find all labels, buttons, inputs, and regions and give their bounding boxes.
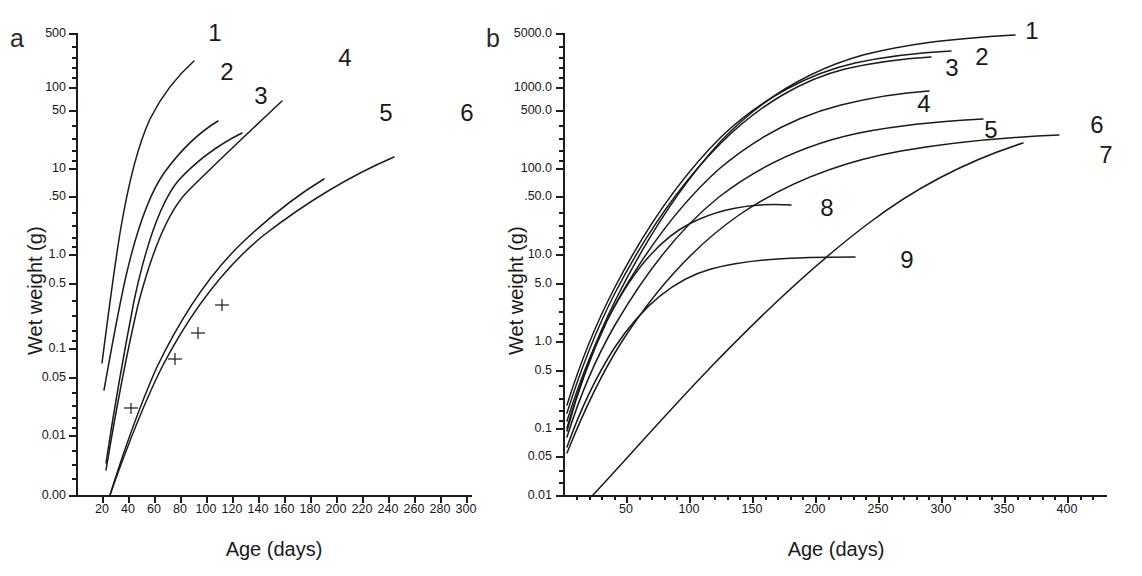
panel-b-ytick-label: 0.5	[492, 363, 552, 377]
panel-b-ytick-label: 500.0	[492, 103, 552, 117]
panel-a-xtick-label: 160	[274, 502, 295, 516]
panel-b-xtick-label: 400	[1057, 502, 1078, 516]
panel-a-curve-label-6: 6	[460, 101, 473, 125]
panel-a-xtick-label: 20	[95, 502, 109, 516]
panel-a-curves	[76, 33, 472, 496]
panel-b-ytick	[556, 428, 563, 430]
panel-b-xtick-minor	[865, 496, 867, 500]
panel-b-xtick-minor	[991, 496, 993, 500]
panel-a-ytick	[69, 495, 76, 497]
panel-b-ytick-label: .50.0	[492, 189, 552, 203]
panel-b-xtick-minor	[1054, 496, 1056, 500]
panel-b-curve-label-4: 4	[917, 92, 930, 116]
panel-b-curve-label-8: 8	[820, 196, 833, 220]
panel-b-xtick-minor	[1029, 496, 1031, 500]
panel-b-x-axis-title: Age (days)	[788, 538, 885, 561]
panel-a-ytick-label: 0.00	[20, 488, 66, 502]
panel-b-xtick-minor	[903, 496, 905, 500]
panel-b-xtick-minor	[891, 496, 893, 500]
panel-b: b 5000.0 1000.0 500.0 100.0 .50.0 10.0 5…	[480, 0, 1142, 576]
panel-b-xtick-minor	[1042, 496, 1044, 500]
panel-a-curve-label-1: 1	[208, 21, 221, 45]
panel-b-xtick-minor	[714, 496, 716, 500]
panel-b-curve-label-5: 5	[984, 118, 997, 142]
panel-a-xtick-label: 180	[300, 502, 321, 516]
panel-b-xtick-minor	[1017, 496, 1019, 500]
curve-a-3	[106, 133, 242, 463]
panel-b-ytick-label: 0.01	[492, 488, 552, 502]
panel-a-x-axis-title: Age (days)	[226, 538, 323, 561]
panel-b-xtick-minor	[739, 496, 741, 500]
panel-b-ytick	[556, 283, 563, 285]
panel-a-xtick-label: 220	[352, 502, 373, 516]
panel-b-ytick	[556, 196, 563, 198]
panel-b-curve-label-1: 1	[1025, 19, 1038, 43]
panel-a: a 500 100 50 10 .50 1.0 0.5 0.1 0.05 0.0…	[0, 0, 500, 576]
curve-b-1	[567, 35, 1015, 428]
panel-b-xtick-minor	[777, 496, 779, 500]
panel-a-ytick-label: 100	[20, 80, 66, 94]
panel-b-xtick-label: 350	[994, 502, 1015, 516]
panel-a-xtick-label: 60	[147, 502, 161, 516]
panel-b-curve-label-9: 9	[900, 248, 913, 272]
panel-a-ytick	[69, 377, 76, 379]
panel-b-curve-label-7: 7	[1099, 143, 1112, 167]
panel-a-xtick-label: 300	[456, 502, 477, 516]
curve-a-2	[104, 121, 218, 390]
panel-a-curve-label-2: 2	[220, 60, 233, 84]
panel-a-xtick-label: 260	[404, 502, 425, 516]
panel-b-xtick-label: 250	[868, 502, 889, 516]
panel-a-ytick	[69, 348, 76, 350]
panel-a-ytick-label: 0.01	[20, 428, 66, 442]
panel-b-xtick-minor	[702, 496, 704, 500]
panel-a-xtick-label: 40	[121, 502, 135, 516]
panel-b-xtick-minor	[651, 496, 653, 500]
curve-b-3	[567, 57, 931, 413]
panel-a-ytick-label: 500	[20, 26, 66, 40]
curve-a-5	[110, 179, 324, 495]
panel-a-ytick-label: 50	[20, 103, 66, 117]
curve-b-7	[567, 135, 1059, 453]
curve-a-6	[110, 157, 394, 495]
panel-b-ytick	[556, 110, 563, 112]
panel-a-curve-label-4: 4	[338, 46, 351, 70]
growth-curve-figure: a 500 100 50 10 .50 1.0 0.5 0.1 0.05 0.0…	[0, 0, 1142, 576]
panel-b-xtick-minor	[576, 496, 578, 500]
panel-a-curve-label-3: 3	[254, 84, 267, 108]
panel-b-curve-label-3: 3	[945, 56, 958, 80]
panel-a-ytick-label: .50	[20, 189, 66, 203]
panel-b-ytick	[556, 495, 563, 497]
panel-b-ytick	[556, 168, 563, 170]
panel-b-xtick-minor	[916, 496, 918, 500]
panel-a-curve-label-5: 5	[379, 101, 392, 125]
panel-b-ytick-label: 1000.0	[492, 80, 552, 94]
curve-b-9	[567, 257, 855, 447]
panel-a-ytick	[69, 33, 76, 35]
panel-b-ytick	[556, 341, 563, 343]
curve-b-4	[567, 91, 929, 421]
panel-b-ytick	[556, 370, 563, 372]
panel-b-xtick-minor	[840, 496, 842, 500]
panel-a-error-bars	[124, 299, 229, 414]
panel-b-ytick	[556, 87, 563, 89]
curve-b-2	[567, 51, 951, 405]
panel-b-xtick-label: 50	[619, 502, 633, 516]
panel-a-xtick-label: 120	[222, 502, 243, 516]
panel-b-xtick-minor	[1080, 496, 1082, 500]
panel-a-xtick-label: 240	[378, 502, 399, 516]
panel-b-curve-label-2: 2	[975, 45, 988, 69]
panel-b-ytick	[556, 33, 563, 35]
panel-a-ytick-label: 10	[20, 161, 66, 175]
panel-b-xtick-minor	[765, 496, 767, 500]
panel-b-xtick-minor	[828, 496, 830, 500]
panel-b-xtick-minor	[802, 496, 804, 500]
panel-b-xtick-minor	[790, 496, 792, 500]
curve-a-4	[106, 101, 282, 470]
panel-a-xtick-label: 80	[173, 502, 187, 516]
panel-b-xtick-minor	[966, 496, 968, 500]
panel-a-xtick-label: 140	[248, 502, 269, 516]
panel-b-ytick	[556, 456, 563, 458]
panel-b-ytick-label: 0.1	[492, 421, 552, 435]
panel-a-ytick-label: 0.05	[20, 370, 66, 384]
panel-b-xtick-minor	[1092, 496, 1094, 500]
